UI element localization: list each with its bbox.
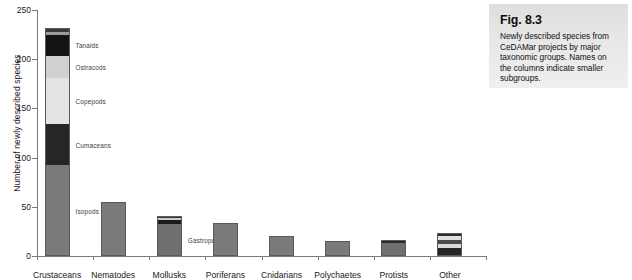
bar-segment-other-1 [437,248,462,256]
bar-poriferans[interactable] [213,223,238,256]
x-axis-label-mollusks: Mollusks [153,270,186,280]
x-axis-tick [374,256,375,260]
bar-crustaceans[interactable] [45,28,70,256]
bar-segment-nematodes [101,202,126,256]
x-axis-tick [430,256,431,260]
segment-label-isopods: Isopods [76,207,99,214]
segment-label-tanaids: Tanaids [76,42,99,49]
bar-segment-other-4 [437,236,462,240]
x-axis-tick [486,256,487,260]
bar-segment-sub-f [381,240,406,243]
segment-label-ostracods: Ostracods [76,64,106,71]
bar-nematodes[interactable] [101,202,126,256]
segment-label-copepods: Copepods [76,98,106,105]
x-axis-tick [262,256,263,260]
x-axis-label-polychaetes: Polychaetes [314,270,361,280]
x-axis-label-protists: Protists [379,270,408,280]
bar-cnidarians[interactable] [269,236,294,256]
bar-polychaetes[interactable] [325,241,350,256]
bar-segment-sub-d [157,218,182,220]
x-axis-tick [149,256,150,260]
x-axis-label-nematodes: Nematodes [91,270,135,280]
bar-segment-other-2 [437,244,462,248]
x-axis-label-poriferans: Poriferans [206,270,245,280]
bar-segment-poriferans [213,223,238,256]
x-axis-label-other: Other [439,270,461,280]
x-axis-label-crustaceans: Crustaceans [33,270,81,280]
y-axis-title: Number of newly described species [12,18,22,228]
bar-segment-sub-a [45,32,70,35]
x-axis-tick [318,256,319,260]
y-axis-line [37,10,38,256]
x-axis-tick [37,256,38,260]
bar-protists[interactable] [381,240,406,256]
plot-area: IsopodsCumaceansCopepodsOstracodsTanaids… [37,10,486,256]
bar-segment-isopods [45,165,70,256]
figure-number: Fig. 8.3 [500,13,619,27]
y-axis-tick [32,207,37,208]
bar-segment-ostracods [45,56,70,78]
bar-segment-other-3 [437,240,462,244]
y-axis-tick-label: 0 [26,251,31,261]
figure-caption-text: Newly described species from CeDAMar pro… [500,31,619,84]
x-axis-label-cnidarians: Cnidarians [261,270,302,280]
bar-segment-cnidarians [269,236,294,256]
y-axis-tick [32,158,37,159]
bar-other[interactable] [437,233,462,256]
bar-segment-copepods [45,78,70,124]
figure-caption-box: Fig. 8.3 Newly described species from Ce… [489,4,628,88]
bar-segment-tanaids [45,35,70,57]
y-axis-tick [32,108,37,109]
bar-segment-cumaceans [45,124,70,165]
bar-segment-polychaetes [325,241,350,256]
bar-segment-sub-c [157,220,182,224]
x-axis-tick [205,256,206,260]
bar-segment-other-5 [437,233,462,236]
bar-segment-sub-b [45,28,70,32]
bar-segment-gastropods [157,224,182,256]
bar-segment-protists [381,243,406,256]
y-axis-tick [32,59,37,60]
bar-mollusks[interactable] [157,216,182,256]
y-axis-tick [32,10,37,11]
y-axis-tick-label: 50 [22,202,31,212]
x-axis-tick [93,256,94,260]
bar-segment-sub-e [157,216,182,218]
y-axis-tick-label: 250 [17,5,31,15]
segment-label-cumaceans: Cumaceans [76,141,111,148]
